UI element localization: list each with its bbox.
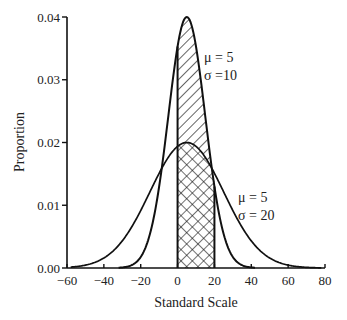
x-tick-label: −20 xyxy=(131,273,151,288)
x-tick-label: 80 xyxy=(319,273,332,288)
x-tick-label: 60 xyxy=(282,273,295,288)
chart-canvas: −60−40−20020406080 0.000.010.020.030.04 … xyxy=(0,0,347,320)
annotation-sigma-10: μ = 5 σ =10 xyxy=(204,50,237,83)
annotation-mu-sigma10: μ = 5 xyxy=(204,50,233,65)
y-tick-label: 0.00 xyxy=(37,261,60,276)
y-tick-label: 0.03 xyxy=(37,72,60,87)
x-tick-label: 40 xyxy=(245,273,258,288)
y-tick-label: 0.04 xyxy=(37,10,60,25)
y-tick-label: 0.01 xyxy=(37,198,60,213)
annotation-sigma-20: μ = 5 σ = 20 xyxy=(238,190,274,223)
x-tick-label: 0 xyxy=(174,273,181,288)
y-tick-label: 0.02 xyxy=(37,135,60,150)
y-ticks: 0.000.010.020.030.04 xyxy=(37,10,67,276)
x-axis-title: Standard Scale xyxy=(154,295,238,310)
annotation-sigma20: σ = 20 xyxy=(238,208,274,223)
x-tick-label: 20 xyxy=(208,273,221,288)
annotation-mu-sigma20: μ = 5 xyxy=(238,190,267,205)
y-axis-title: Proportion xyxy=(12,112,27,172)
annotation-sigma10: σ =10 xyxy=(204,68,237,83)
x-tick-label: −40 xyxy=(94,273,114,288)
